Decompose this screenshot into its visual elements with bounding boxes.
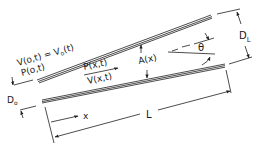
area-label: A(x) (137, 52, 157, 66)
position-dimension (45, 107, 78, 143)
tapered-tube-diagram: DL θ A(x) P(x,t) V(x,t) V(o,t) = Vo(t) P… (0, 0, 263, 153)
inlet-diameter-dimension (12, 77, 36, 118)
taper-angle-indicator (168, 33, 215, 65)
pressure-x-label: P(x,t) (82, 57, 108, 72)
inlet-velocity-label: V(o,t) = Vo(t) (16, 42, 75, 69)
inlet-diameter-label: Do (7, 95, 18, 106)
outlet-diameter-label: DL (239, 30, 251, 44)
angle-label: θ (198, 42, 204, 53)
length-label: L (146, 109, 152, 120)
velocity-x-label: V(x,t) (86, 71, 112, 86)
position-label: x (83, 111, 89, 121)
